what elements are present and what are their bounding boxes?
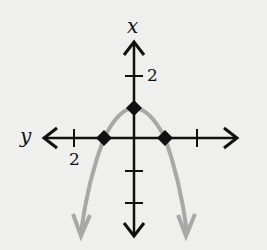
vertical-axis-label: x	[127, 14, 138, 38]
horizontal-axis-label: y	[20, 124, 31, 148]
point-marker	[126, 100, 142, 116]
horizontal-tick-label: 2	[69, 149, 80, 169]
vertical-tick-label: 2	[147, 65, 158, 85]
point-marker	[157, 130, 173, 146]
point-marker	[96, 130, 112, 146]
